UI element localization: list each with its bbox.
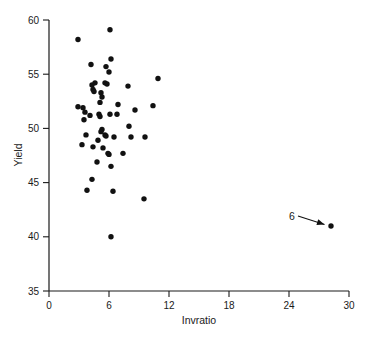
chart-canvas: 354045505560 Yield 0612182430 Invratio 6 [0,0,371,343]
data-point [81,117,86,122]
x-tick-label: 12 [163,300,175,311]
data-point [88,62,93,67]
y-axis-title: Yield [12,143,24,166]
data-point [103,64,108,69]
data-point [150,103,155,108]
data-point [89,177,94,182]
x-axis: 0612182430 Invratio [46,291,355,326]
x-axis-title: Invratio [182,314,217,326]
x-tick-label: 24 [283,300,295,311]
data-point [100,145,105,150]
data-point [110,189,115,194]
data-point [84,187,89,192]
data-point [111,134,116,139]
data-point [104,81,109,86]
data-point [87,113,92,118]
y-tick-label: 55 [28,69,40,80]
data-point [125,83,130,88]
y-axis: 354045505560 Yield [12,15,49,297]
y-axis-tick-labels: 354045505560 [28,15,40,297]
data-point [97,114,102,119]
data-point [107,112,112,117]
data-point-series [75,27,333,239]
x-tick-label: 30 [343,300,355,311]
data-point [94,159,99,164]
data-point [108,234,113,239]
data-point [115,102,120,107]
data-point [91,89,96,94]
data-point [120,151,125,156]
y-tick-label: 35 [28,286,40,297]
x-axis-ticks [49,291,349,297]
annotation-label: 6 [289,210,295,222]
x-tick-label: 6 [106,300,112,311]
y-tick-label: 50 [28,123,40,134]
data-point [155,76,160,81]
data-point [108,164,113,169]
data-point [142,134,147,139]
data-point [99,94,104,99]
data-point [108,56,113,61]
data-point [75,104,80,109]
y-tick-label: 45 [28,177,40,188]
data-point [83,132,88,137]
data-point [107,27,112,32]
data-point [132,107,137,112]
y-tick-label: 40 [28,231,40,242]
annotation-arrow-head [316,219,324,225]
annotation-layer: 6 [289,210,324,225]
scatter-plot-figure: 354045505560 Yield 0612182430 Invratio 6 [0,0,371,343]
data-point [128,134,133,139]
data-point [95,138,100,143]
x-tick-label: 0 [46,300,52,311]
x-tick-label: 18 [223,300,235,311]
data-point [103,133,108,138]
data-point [90,144,95,149]
data-point [79,142,84,147]
data-point [97,100,102,105]
data-point [328,223,333,228]
data-point [126,124,131,129]
data-point [106,152,111,157]
x-axis-tick-labels: 0612182430 [46,300,355,311]
data-point [75,37,80,42]
data-point [82,109,87,114]
y-tick-label: 60 [28,15,40,26]
data-point [106,69,111,74]
y-axis-ticks [43,20,49,291]
data-point [114,112,119,117]
data-point [141,196,146,201]
